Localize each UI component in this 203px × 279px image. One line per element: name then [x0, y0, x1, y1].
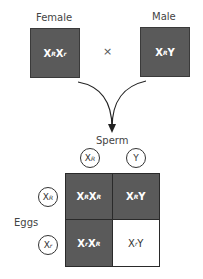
allele-sup: r — [50, 242, 52, 249]
sperm-allele-XR: XR — [80, 148, 100, 168]
merge-arrow-icon — [0, 0, 203, 140]
allele-base: X — [76, 191, 84, 202]
egg-allele-Xr: Xr — [38, 235, 58, 255]
punnett-cell-XrXR: XrXR — [66, 220, 113, 266]
punnett-cell-XrY: XrY — [113, 220, 160, 266]
allele-sup: R — [49, 194, 53, 201]
allele-base: X — [88, 238, 96, 249]
allele-base: X — [128, 238, 135, 249]
allele-base: Y — [133, 153, 139, 163]
punnett-cell-XRXR: XRXR — [66, 174, 113, 220]
punnett-cell-XRY: XRY — [113, 174, 160, 220]
allele-base: Y — [137, 238, 143, 249]
punnett-square: XRXR XRY XrXR XrY — [65, 173, 160, 267]
allele-base: X — [77, 238, 85, 249]
eggs-label: Eggs — [14, 217, 38, 228]
sperm-label: Sperm — [96, 135, 129, 146]
sperm-allele-Y: Y — [126, 148, 146, 168]
allele-sup: R — [96, 193, 101, 200]
allele-base: X — [89, 191, 97, 202]
allele-sup: R — [96, 240, 101, 247]
allele-sup: R — [91, 155, 95, 162]
egg-allele-XR: XR — [38, 187, 58, 207]
allele-base: X — [126, 191, 134, 202]
allele-base: Y — [138, 191, 145, 202]
